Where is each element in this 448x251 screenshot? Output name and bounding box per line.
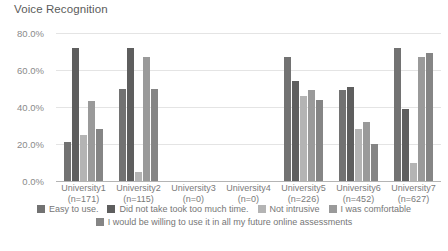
legend-label: I was comfortable (341, 204, 412, 214)
y-axis-tick-label: 80.0% (4, 28, 44, 39)
x-axis-university-name: University2 (116, 183, 161, 193)
legend-label: Easy to use. (49, 204, 99, 214)
x-axis-sample-count: (n=627) (386, 194, 441, 205)
bar-group (111, 33, 166, 181)
plot-area (56, 33, 441, 181)
bar (127, 48, 134, 181)
y-axis-tick-label: 0.0% (4, 176, 44, 187)
bar (426, 53, 433, 181)
bar (88, 101, 95, 181)
chart-legend: Easy to use.Did not take took too much t… (0, 204, 448, 227)
x-axis-sample-count: (n=452) (331, 194, 386, 205)
bar (410, 163, 417, 182)
bar-group (56, 33, 111, 181)
legend-label: Did not take took too much time. (119, 204, 248, 214)
legend-swatch-icon (107, 205, 115, 213)
legend-label: I would be willing to use it in all my f… (108, 217, 353, 227)
bar (64, 142, 71, 181)
x-axis-tick-label: University4(n=0) (221, 183, 276, 204)
x-axis-tick-label: University7(n=627) (386, 183, 441, 204)
x-axis-sample-count: (n=171) (56, 194, 111, 205)
bar (363, 122, 370, 181)
legend-item[interactable]: Easy to use. (37, 204, 99, 214)
bar (402, 109, 409, 181)
x-axis-university-name: University7 (391, 183, 436, 193)
bar (119, 89, 126, 182)
bar (72, 48, 79, 181)
bar-group (221, 33, 276, 181)
bar (355, 129, 362, 181)
bar-group (331, 33, 386, 181)
bar (143, 57, 150, 181)
x-axis-tick-label: University6(n=452) (331, 183, 386, 204)
legend-row: I would be willing to use it in all my f… (96, 217, 353, 227)
y-axis-tick-label: 20.0% (4, 139, 44, 150)
chart-container: Voice Recognition University1(n=171)Univ… (0, 0, 448, 251)
bar (96, 129, 103, 181)
legend-row: Easy to use.Did not take took too much t… (37, 204, 411, 214)
legend-item[interactable]: I was comfortable (329, 204, 412, 214)
legend-swatch-icon (329, 205, 337, 213)
x-axis-university-name: University6 (336, 183, 381, 193)
bar (339, 90, 346, 181)
bar (292, 81, 299, 181)
bar (135, 172, 142, 181)
bar (316, 100, 323, 181)
bar-group (276, 33, 331, 181)
x-axis-sample-count: (n=0) (166, 194, 221, 205)
bar-group (166, 33, 221, 181)
y-axis-tick-label: 40.0% (4, 102, 44, 113)
legend-item[interactable]: Did not take took too much time. (107, 204, 248, 214)
bar (151, 89, 158, 182)
bar (394, 48, 401, 181)
x-axis-university-name: University5 (281, 183, 326, 193)
bar (371, 144, 378, 181)
bar (80, 135, 87, 181)
chart-title: Voice Recognition (14, 3, 108, 15)
x-axis-university-name: University4 (226, 183, 271, 193)
x-axis-university-name: University1 (61, 183, 106, 193)
legend-item[interactable]: I would be willing to use it in all my f… (96, 217, 353, 227)
x-axis-tick-label: University3(n=0) (166, 183, 221, 204)
x-axis-sample-count: (n=0) (221, 194, 276, 205)
legend-swatch-icon (96, 218, 104, 226)
x-axis-sample-count: (n=115) (111, 194, 166, 205)
bar (308, 90, 315, 181)
legend-item[interactable]: Not intrusive (258, 204, 320, 214)
legend-swatch-icon (258, 205, 266, 213)
legend-swatch-icon (37, 205, 45, 213)
x-axis-university-name: University3 (171, 183, 216, 193)
bar (347, 87, 354, 181)
bar-group (386, 33, 441, 181)
x-axis-tick-label: University2(n=115) (111, 183, 166, 204)
x-axis-sample-count: (n=226) (276, 194, 331, 205)
x-axis-tick-label: University5(n=226) (276, 183, 331, 204)
bar (418, 57, 425, 181)
legend-label: Not intrusive (270, 204, 320, 214)
x-axis-tick-label: University1(n=171) (56, 183, 111, 204)
bar (300, 96, 307, 181)
y-axis-tick-label: 60.0% (4, 65, 44, 76)
x-axis-line (56, 181, 441, 182)
bar (284, 57, 291, 181)
